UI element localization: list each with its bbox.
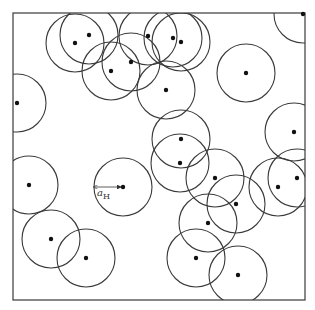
particle-dot: [234, 202, 238, 206]
particle-dot: [121, 185, 125, 189]
radius-annotation: aH: [94, 187, 121, 201]
particle-dot: [27, 183, 31, 187]
particle-dot: [206, 221, 210, 225]
particle-dot: [301, 12, 305, 16]
particle-dot: [109, 69, 113, 73]
particle-dot: [178, 161, 182, 165]
particle-dot: [194, 256, 198, 260]
hydrodynamic-circle: [265, 103, 315, 161]
particle-dot: [84, 256, 88, 260]
particle-dot: [295, 176, 299, 180]
particle-dot: [164, 88, 168, 92]
particle-dot: [179, 40, 183, 44]
particle-dot: [171, 36, 175, 40]
particle-dot: [87, 33, 91, 37]
particle-diagram: aH: [0, 0, 315, 310]
particle-dot: [129, 60, 133, 64]
particle-dot: [146, 34, 150, 38]
hydrodynamic-circle: [0, 74, 46, 132]
particle-dot: [49, 237, 53, 241]
radius-subscript: H: [103, 192, 110, 201]
hydrodynamic-circle: [274, 0, 315, 43]
particle-dot: [236, 273, 240, 277]
particle-dot: [244, 71, 248, 75]
particle-dots: [15, 12, 305, 277]
particle-dot: [73, 41, 77, 45]
particle-dot: [179, 137, 183, 141]
particle-dot: [15, 101, 19, 105]
hydrodynamic-circles: [0, 0, 315, 304]
particle-dot: [292, 130, 296, 134]
particle-dot: [213, 176, 217, 180]
particle-dot: [276, 185, 280, 189]
radius-label: aH: [97, 187, 110, 201]
